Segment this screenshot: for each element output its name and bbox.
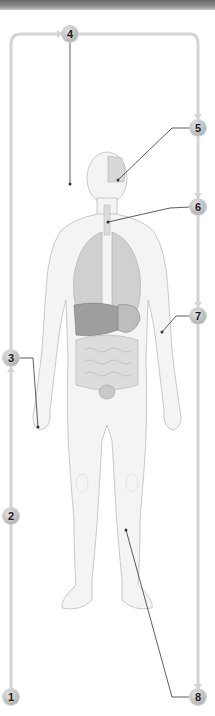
badge-5: 5: [190, 120, 206, 136]
brain: [108, 156, 125, 182]
liver-stomach: [74, 303, 140, 336]
badge-2: 2: [3, 508, 19, 524]
badge-8: 8: [190, 689, 206, 705]
bladder: [99, 385, 115, 399]
badge-1: 1: [3, 689, 19, 705]
badge-4: 4: [62, 26, 78, 42]
anatomy-diagram: [0, 0, 215, 716]
trachea: [104, 205, 110, 235]
badge-3: 3: [3, 350, 19, 366]
intestines: [76, 335, 138, 390]
badge-7: 7: [190, 308, 206, 324]
badge-6: 6: [190, 199, 206, 215]
